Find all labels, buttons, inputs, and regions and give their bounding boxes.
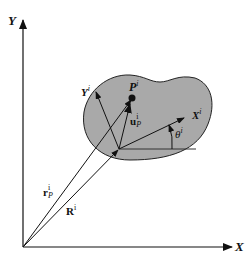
body-x-axis-label: Xi	[192, 108, 202, 121]
kinematics-diagram	[0, 0, 249, 264]
vector-r-p-label: riP	[43, 187, 54, 199]
global-x-axis-label: X	[235, 240, 244, 253]
u-sub: P	[136, 121, 141, 129]
theta-sup: i	[180, 126, 182, 135]
R-main: R	[66, 205, 74, 217]
body-y-sup: i	[88, 84, 90, 93]
r-scripts: iP	[48, 187, 54, 199]
point-p-label: Pi	[129, 80, 139, 93]
vector-r-p	[23, 100, 131, 247]
point-p-marker	[129, 95, 136, 102]
u-scripts: iP	[136, 116, 142, 128]
R-sup: i	[74, 203, 76, 212]
global-y-axis-label: Y	[8, 14, 16, 27]
y-label-text: Y	[8, 13, 16, 28]
x-label-text: X	[235, 239, 244, 254]
point-p-sup: i	[136, 79, 138, 88]
body-y-axis-label: Yi	[81, 85, 90, 98]
vector-R-label: Ri	[66, 204, 76, 217]
vector-u-p-label: uiP	[130, 116, 142, 128]
angle-theta-label: θi	[175, 127, 183, 140]
body-y-main: Y	[81, 86, 88, 98]
vector-R	[23, 150, 118, 247]
body-x-sup: i	[199, 107, 201, 116]
r-sub: P	[48, 192, 53, 200]
